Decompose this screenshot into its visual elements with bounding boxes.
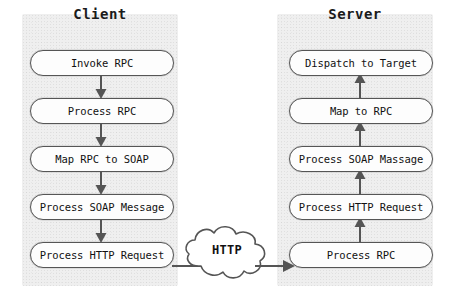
client-step-process-rpc[interactable]: Process RPC — [30, 98, 174, 124]
client-arrow-down-1 — [94, 72, 108, 100]
client-step-process-http-request[interactable]: Process HTTP Request — [30, 242, 174, 268]
diagram-canvas: Client Invoke RPC Process RPC Map RPC to… — [0, 0, 453, 303]
server-step-process-rpc[interactable]: Process RPC — [289, 242, 433, 268]
server-arrow-up-3 — [353, 168, 367, 196]
client-arrow-down-4 — [94, 216, 108, 244]
server-arrow-up-4 — [353, 216, 367, 244]
client-step-map-rpc-to-soap[interactable]: Map RPC to SOAP — [30, 146, 174, 172]
client-panel-title: Client — [22, 6, 178, 22]
server-arrow-up-1 — [353, 72, 367, 100]
server-step-dispatch-to-target[interactable]: Dispatch to Target — [289, 50, 433, 76]
server-step-map-to-rpc[interactable]: Map to RPC — [289, 98, 433, 124]
cloud-to-server-arrow — [255, 255, 295, 277]
client-arrow-down-3 — [94, 168, 108, 196]
client-step-process-soap-message[interactable]: Process SOAP Message — [30, 194, 174, 220]
client-step-invoke-rpc[interactable]: Invoke RPC — [30, 50, 174, 76]
server-panel-title: Server — [277, 6, 433, 22]
server-step-process-http-request[interactable]: Process HTTP Request — [289, 194, 433, 220]
server-step-process-soap-massage[interactable]: Process SOAP Massage — [289, 146, 433, 172]
server-arrow-up-2 — [353, 120, 367, 148]
client-arrow-down-2 — [94, 120, 108, 148]
